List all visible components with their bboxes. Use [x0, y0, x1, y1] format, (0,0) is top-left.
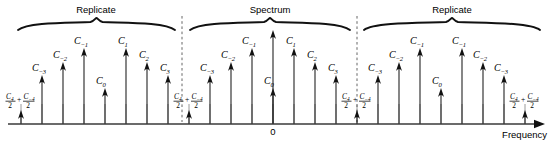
- coefficient-label: C−1: [242, 35, 256, 48]
- coefficient-subscript: −3: [206, 68, 214, 75]
- frequency-axis-group: 0Frequency: [8, 120, 547, 140]
- coefficient-label: C−1: [452, 35, 466, 48]
- fraction-plus-sign: +: [17, 95, 21, 104]
- spectral-line: [438, 88, 444, 124]
- fraction-right-denominator: 2: [362, 101, 366, 110]
- coefficient-subscript: −1: [458, 41, 466, 48]
- coefficient-label: C0: [96, 75, 106, 88]
- coefficient-label: C2: [307, 49, 317, 62]
- coefficient-label: C−3: [32, 62, 47, 75]
- fraction-plus-sign: +: [353, 95, 357, 104]
- spectral-line: [501, 75, 507, 124]
- spectral-line: [354, 110, 360, 124]
- fraction-right-denominator: 2: [26, 101, 30, 110]
- coefficient-label: C−3: [200, 62, 215, 75]
- brace-group: ReplicateSpectrumReplicate: [18, 4, 540, 30]
- coefficient-subscript: 2: [145, 55, 149, 62]
- coefficient-subscript: 3: [333, 68, 338, 75]
- spectral-line: [480, 62, 486, 124]
- half-coefficient-sum-label: C42+C−42: [6, 92, 36, 110]
- section-brace-label: Spectrum: [250, 4, 291, 15]
- spectral-line: [417, 48, 423, 124]
- coefficient-subscript: 1: [292, 41, 295, 48]
- coefficient-label: C−2: [53, 49, 68, 62]
- section-brace: [364, 18, 540, 30]
- coefficient-subscript: −1: [248, 41, 256, 48]
- half-coefficient-sum-label: C42+C−42: [510, 92, 540, 110]
- coefficient-subscript: −1: [80, 41, 88, 48]
- spectral-line: [102, 88, 108, 124]
- coefficient-label: C−1: [410, 35, 424, 48]
- coefficient-label: C3: [328, 62, 338, 75]
- fraction-right-denominator: 2: [530, 101, 534, 110]
- spectral-line: [375, 75, 381, 124]
- coefficient-subscript: −3: [500, 68, 508, 75]
- frequency-axis-label: Frequency: [502, 129, 547, 140]
- spectral-line: [60, 62, 66, 124]
- half-coefficient-sum-label: C42+C−42: [342, 92, 372, 110]
- coefficient-subscript: −3: [374, 68, 382, 75]
- coefficient-subscript: −2: [479, 55, 487, 62]
- fraction-plus-sign: +: [185, 95, 189, 104]
- coefficient-subscript: 0: [438, 81, 442, 88]
- fraction-left-denominator: 2: [512, 101, 516, 110]
- coefficient-subscript: −2: [395, 55, 403, 62]
- coefficient-label: C−2: [389, 49, 404, 62]
- coefficient-subscript: −2: [227, 55, 235, 62]
- coefficient-label: C1: [118, 35, 128, 48]
- section-brace: [190, 18, 350, 30]
- coefficient-label: C2: [139, 49, 149, 62]
- spectral-line: [207, 75, 213, 124]
- spectral-line: [291, 48, 297, 124]
- spectral-line: [270, 30, 276, 124]
- coefficient-subscript: 0: [270, 81, 274, 88]
- spectrum-diagram-canvas: ReplicateSpectrumReplicate C42+C−42C−3C−…: [0, 0, 553, 150]
- spectral-line: [123, 48, 129, 124]
- coefficient-label: C−3: [368, 62, 383, 75]
- coefficient-subscript: 0: [102, 81, 106, 88]
- coefficient-label: C−3: [494, 62, 509, 75]
- coefficient-subscript: −1: [416, 41, 424, 48]
- coefficient-subscript: 3: [165, 68, 170, 75]
- spectral-line: [333, 75, 339, 124]
- fraction-left-denominator: 2: [344, 101, 348, 110]
- section-brace-label: Replicate: [432, 4, 472, 15]
- fraction-right-denominator: 2: [194, 101, 198, 110]
- coefficient-subscript: 2: [313, 55, 317, 62]
- fraction-left-denominator: 2: [176, 101, 180, 110]
- spectral-line: [522, 110, 528, 124]
- coefficient-label: C1: [286, 35, 296, 48]
- spectral-line: [228, 62, 234, 124]
- spectral-line: [165, 75, 171, 124]
- spectral-line: [186, 110, 192, 124]
- spectral-line: [312, 62, 318, 124]
- frequency-axis-arrowhead: [534, 120, 545, 128]
- coefficient-label: C−1: [74, 35, 88, 48]
- section-brace: [18, 18, 175, 30]
- spectrum-replicates-figure: ReplicateSpectrumReplicate C42+C−42C−3C−…: [0, 0, 553, 150]
- coefficient-label: C0: [432, 75, 442, 88]
- coefficient-subscript: 1: [124, 41, 127, 48]
- spectral-line: [18, 110, 24, 124]
- spectral-line: [459, 48, 465, 124]
- coefficient-label: C3: [160, 62, 170, 75]
- half-coefficient-sum-label: C42+C−42: [174, 92, 204, 110]
- origin-tick-label: 0: [270, 126, 275, 137]
- coefficient-label-group: C42+C−42C−3C−2C−1C0C1C2C3C42+C−42C−3C−2C…: [6, 35, 540, 110]
- spectral-line: [144, 62, 150, 124]
- spectral-line: [81, 48, 87, 124]
- spectral-line: [39, 75, 45, 124]
- fraction-left-denominator: 2: [8, 101, 12, 110]
- coefficient-subscript: −3: [38, 68, 46, 75]
- fraction-plus-sign: +: [521, 95, 525, 104]
- section-brace-label: Replicate: [76, 4, 116, 15]
- coefficient-label: C−2: [221, 49, 236, 62]
- spectral-line: [396, 62, 402, 124]
- coefficient-subscript: −2: [59, 55, 67, 62]
- spectral-line: [249, 48, 255, 124]
- coefficient-label: C−2: [473, 49, 488, 62]
